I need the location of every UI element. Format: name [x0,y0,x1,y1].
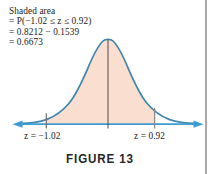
axis-label-lower-bound: z = −1.02 [24,131,60,141]
annotation-line-4: = 0.6673 [9,37,91,47]
shaded-area-annotation: Shaded area = P(−1.02 ≤ z ≤ 0.92) = 0.82… [9,6,91,48]
annotation-line-3: = 0.8212 − 0.1539 [9,27,91,37]
axis-arrow-left-icon [13,121,23,128]
annotation-line-1: Shaded area [9,6,91,16]
figure-caption: FIGURE 13 [14,151,186,166]
axis-arrow-right-icon [194,121,204,128]
annotation-line-2: = P(−1.02 ≤ z ≤ 0.92) [9,16,91,26]
figure-container: Shaded area = P(−1.02 ≤ z ≤ 0.92) = 0.82… [0,0,212,174]
axis-label-upper-bound: z = 0.92 [134,131,165,141]
page-gutter-rule [205,0,207,174]
